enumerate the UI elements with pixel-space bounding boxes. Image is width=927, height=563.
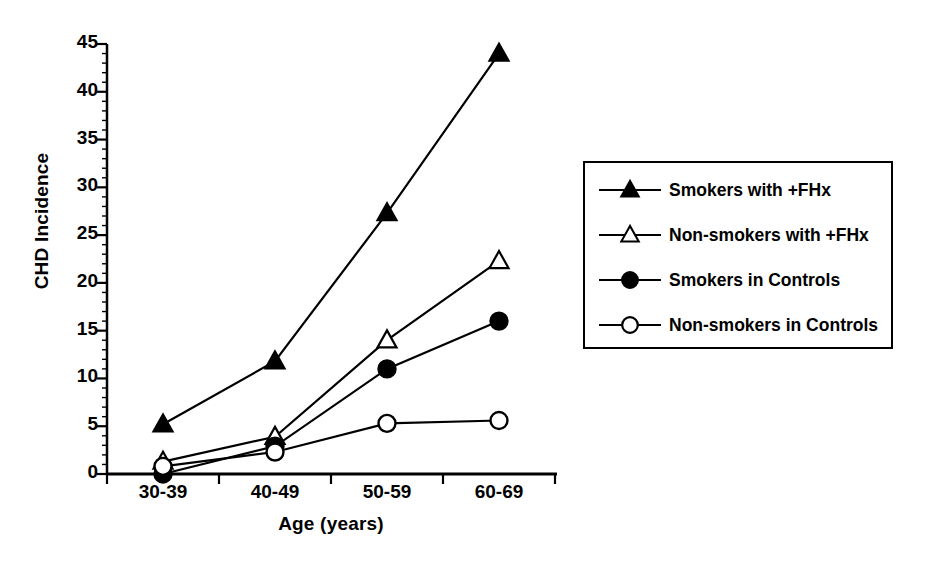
- data-point-marker: [155, 458, 172, 475]
- series-line: [163, 54, 499, 425]
- data-point-marker: [379, 360, 396, 377]
- open-triangle-glyph: [621, 226, 638, 242]
- chart-figure: CHD Incidence Age (years) 05101520253035…: [0, 0, 927, 563]
- series-line: [163, 420, 499, 466]
- legend-label: Non-smokers in Controls: [669, 315, 878, 336]
- legend-item[interactable]: Smokers in Controls: [599, 267, 840, 293]
- data-point-marker: [491, 313, 508, 330]
- open-circle-glyph: [622, 317, 638, 333]
- data-point-marker: [154, 414, 173, 431]
- open-circle-icon: [599, 313, 661, 337]
- open-triangle-icon: [599, 223, 661, 247]
- legend-marker-sample: [599, 268, 661, 292]
- filled-triangle-glyph: [621, 181, 638, 197]
- legend-label: Non-smokers with +FHx: [669, 225, 869, 246]
- legend-label: Smokers in Controls: [669, 270, 840, 291]
- legend-marker-sample: [599, 313, 661, 337]
- filled-triangle-icon: [599, 178, 661, 202]
- data-point-marker: [491, 412, 508, 429]
- chart-legend: Smokers with +FHxNon-smokers with +FHxSm…: [583, 161, 893, 349]
- series-line: [163, 261, 499, 462]
- data-point-marker: [378, 330, 397, 347]
- data-point-marker: [490, 44, 509, 61]
- data-point-marker: [379, 415, 396, 432]
- legend-item[interactable]: Non-smokers with +FHx: [599, 222, 869, 248]
- legend-item[interactable]: Smokers with +FHx: [599, 177, 831, 203]
- data-point-marker: [378, 203, 397, 220]
- legend-label: Smokers with +FHx: [669, 180, 831, 201]
- legend-item[interactable]: Non-smokers in Controls: [599, 312, 878, 338]
- filled-circle-glyph: [622, 272, 638, 288]
- filled-circle-icon: [599, 268, 661, 292]
- legend-marker-sample: [599, 223, 661, 247]
- legend-marker-sample: [599, 178, 661, 202]
- data-point-marker: [490, 251, 509, 268]
- data-point-marker: [267, 444, 284, 461]
